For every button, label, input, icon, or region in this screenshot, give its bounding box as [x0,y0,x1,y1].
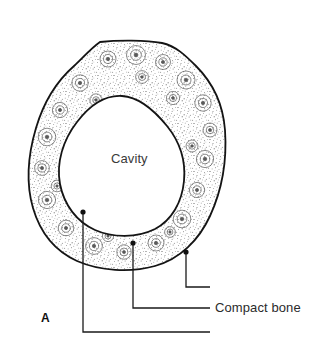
cavity-label: Cavity [111,152,148,165]
panel-letter-label: A [41,312,50,324]
leader-dot-bottom [80,209,85,214]
bone-cross-section-figure: Cavity Compact bone A [0,0,320,355]
leader-line-top [186,252,210,287]
leader-dot-top [183,249,188,254]
leader-dot-compact-bone [130,240,135,245]
compact-bone-label: Compact bone [215,301,301,314]
